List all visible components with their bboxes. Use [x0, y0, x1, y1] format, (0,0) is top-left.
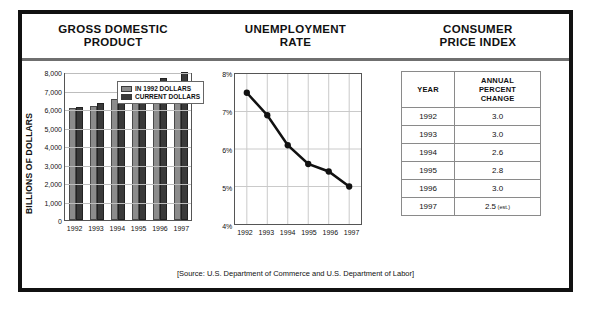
header-gdp-line1: GROSS DOMESTIC [22, 23, 204, 36]
unemployment-chart-panel: 4%5%6%7%8% 199219931994199519961997 [204, 61, 386, 261]
cpi-table-body: 19923.019933.019942.619952.819963.019972… [401, 108, 540, 216]
unemployment-line [247, 93, 349, 187]
header-cpi-line2: PRICE INDEX [387, 36, 569, 49]
gdp-x-axis-ticks: 199219931994199519961997 [64, 225, 192, 232]
table-row: 19963.0 [401, 180, 540, 198]
cpi-col-year: YEAR [401, 72, 455, 108]
cpi-col-change-line3: CHANGE [457, 94, 537, 103]
gdp-x-tick: 1996 [150, 225, 170, 232]
gdp-x-tick: 1993 [86, 225, 106, 232]
cpi-cell-year: 1996 [401, 180, 455, 198]
source-note: [Source: U.S. Department of Commerce and… [22, 269, 569, 278]
unemployment-data-point [305, 161, 311, 167]
gdp-y-axis-label: BILLIONS OF DOLLARS [24, 103, 40, 223]
cpi-col-change: ANNUAL PERCENT CHANGE [455, 72, 540, 108]
gridline [65, 147, 191, 148]
gdp-bar-group [132, 89, 146, 220]
table-row: 19923.0 [401, 108, 540, 126]
unemployment-x-tick: 1996 [320, 229, 340, 236]
gdp-plot-area: IN 1992 DOLLARS CURRENT DOLLARS 01,0002,… [64, 73, 192, 221]
header-unemployment-line1: UNEMPLOYMENT [204, 23, 386, 36]
gdp-legend-item-1: CURRENT DOLLARS [121, 93, 200, 100]
unemployment-x-tick: 1993 [256, 229, 276, 236]
cpi-cell-change: 3.0 [455, 108, 540, 126]
gdp-y-tick: 7,000 [44, 88, 62, 95]
gdp-legend: IN 1992 DOLLARS CURRENT DOLLARS [117, 81, 204, 104]
gdp-bar [139, 89, 146, 220]
cpi-cell-year: 1993 [401, 126, 455, 144]
gridline [65, 203, 191, 204]
gridline [65, 110, 191, 111]
unemployment-data-point [244, 90, 250, 96]
gdp-legend-label-0: IN 1992 DOLLARS [135, 85, 191, 92]
cpi-cell-year: 1997 [401, 198, 455, 216]
table-row: 19952.8 [401, 162, 540, 180]
gdp-y-tick: 6,000 [44, 107, 62, 114]
gdp-y-tick: 4,000 [44, 144, 62, 151]
cpi-cell-change: 3.0 [455, 180, 540, 198]
gdp-x-tick: 1994 [107, 225, 127, 232]
gridline [65, 166, 191, 167]
gdp-x-tick: 1995 [129, 225, 149, 232]
unemployment-y-tick: 4% [222, 223, 232, 230]
unemployment-data-point [346, 183, 352, 189]
header-unemployment-line2: RATE [204, 36, 386, 49]
unemployment-x-axis-ticks: 199219931994199519961997 [234, 229, 362, 236]
infographic-frame: GROSS DOMESTIC PRODUCT UNEMPLOYMENT RATE… [18, 10, 573, 292]
unemployment-x-tick: 1997 [342, 229, 362, 236]
cpi-cell-year: 1995 [401, 162, 455, 180]
header-row: GROSS DOMESTIC PRODUCT UNEMPLOYMENT RATE… [22, 14, 569, 58]
gdp-chart-panel: BILLIONS OF DOLLARS IN 1992 DOLLARS CURR… [22, 61, 204, 261]
gdp-y-tick: 2,000 [44, 181, 62, 188]
cpi-table-panel: YEAR ANNUAL PERCENT CHANGE 19923.019933.… [387, 61, 569, 261]
header-gdp-line2: PRODUCT [22, 36, 204, 49]
unemployment-plot-area: 4%5%6%7%8% [234, 73, 362, 225]
cpi-col-change-line2: PERCENT [457, 85, 537, 94]
table-row: 19972.5 (est.) [401, 198, 540, 216]
gridline [65, 73, 191, 74]
cpi-cell-change: 2.5 (est.) [455, 198, 540, 216]
gdp-legend-label-1: CURRENT DOLLARS [135, 93, 200, 100]
charts-row: BILLIONS OF DOLLARS IN 1992 DOLLARS CURR… [22, 61, 569, 261]
unemployment-data-point [264, 112, 270, 118]
cpi-cell-change: 3.0 [455, 126, 540, 144]
gdp-bar [132, 95, 139, 220]
unemployment-x-tick: 1995 [299, 229, 319, 236]
unemployment-y-tick: 8% [222, 71, 232, 78]
gdp-bar [153, 92, 160, 220]
cpi-table-header-row: YEAR ANNUAL PERCENT CHANGE [401, 72, 540, 108]
cpi-table: YEAR ANNUAL PERCENT CHANGE 19923.019933.… [401, 71, 541, 216]
cpi-cell-year: 1992 [401, 108, 455, 126]
unemployment-data-point [285, 142, 291, 148]
cpi-cell-year: 1994 [401, 144, 455, 162]
gdp-y-tick: 3,000 [44, 162, 62, 169]
gridline [65, 129, 191, 130]
header-unemployment: UNEMPLOYMENT RATE [204, 23, 386, 49]
unemployment-data-point [326, 168, 332, 174]
header-gdp: GROSS DOMESTIC PRODUCT [22, 23, 204, 49]
gdp-y-tick: 8,000 [44, 70, 62, 77]
legend-swatch-icon [121, 94, 132, 100]
unemployment-y-tick: 6% [222, 147, 232, 154]
header-cpi: CONSUMER PRICE INDEX [387, 23, 569, 49]
gdp-x-tick: 1992 [65, 225, 85, 232]
table-row: 19942.6 [401, 144, 540, 162]
gdp-legend-item-0: IN 1992 DOLLARS [121, 85, 200, 92]
unemployment-y-tick: 5% [222, 185, 232, 192]
gdp-x-tick: 1997 [171, 225, 191, 232]
unemployment-line-series [235, 74, 361, 224]
unemployment-x-tick: 1994 [278, 229, 298, 236]
cpi-estimate-note: (est.) [496, 204, 510, 210]
table-row: 19933.0 [401, 126, 540, 144]
cpi-cell-change: 2.6 [455, 144, 540, 162]
cpi-col-change-line1: ANNUAL [457, 76, 537, 85]
gridline [65, 184, 191, 185]
gdp-y-tick: 5,000 [44, 125, 62, 132]
unemployment-y-tick: 7% [222, 109, 232, 116]
cpi-cell-change: 2.8 [455, 162, 540, 180]
gdp-y-tick: 0 [58, 218, 62, 225]
header-cpi-line1: CONSUMER [387, 23, 569, 36]
legend-swatch-icon [121, 86, 132, 92]
gdp-y-tick: 1,000 [44, 199, 62, 206]
unemployment-x-tick: 1992 [235, 229, 255, 236]
